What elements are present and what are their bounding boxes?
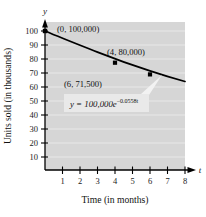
y-axis-title: Units sold (in thousands): [2, 48, 14, 144]
x-tick-label-7: 7: [165, 176, 169, 186]
x-tick-label-5: 5: [130, 176, 134, 186]
y-tick-label-60: 60: [30, 82, 39, 92]
data-point-marker-6: [148, 72, 152, 76]
y-tick-label-40: 40: [30, 110, 39, 120]
equation-body: y = 100,000e: [69, 99, 117, 109]
x-tick-label-3: 3: [95, 176, 99, 186]
chart-svg: 100 90 80 70 60 50 40 30 20 10 1 2 3 4 5…: [0, 0, 206, 217]
y-tick-label-100: 100: [25, 26, 38, 36]
data-point-marker-0: [43, 29, 47, 33]
y-tick-label-20: 20: [30, 138, 39, 148]
data-point-label-0: (0, 100,000): [57, 24, 99, 34]
y-tick-label-80: 80: [30, 54, 39, 64]
y-tick-label-70: 70: [30, 68, 39, 78]
y-tick-label-50: 50: [30, 96, 39, 106]
x-tick-label-4: 4: [113, 176, 118, 186]
x-tick-label-2: 2: [78, 176, 82, 186]
y-axis-variable-label: y: [42, 6, 47, 16]
x-tick-label-1: 1: [60, 176, 64, 186]
data-point-marker-4: [113, 61, 117, 65]
y-tick-label-30: 30: [30, 124, 39, 134]
x-axis-title: Time (in months): [82, 194, 149, 206]
data-point-label-6: (6, 71,500): [64, 79, 102, 89]
equation-exponent: −0.0558t: [117, 98, 139, 104]
y-tick-label-10: 10: [30, 152, 39, 162]
exponential-decay-chart-figure: 100 90 80 70 60 50 40 30 20 10 1 2 3 4 5…: [0, 0, 206, 217]
x-tick-label-6: 6: [148, 176, 152, 186]
x-tick-label-8: 8: [183, 176, 187, 186]
x-axis-variable-label: t: [199, 165, 202, 175]
data-point-label-4: (4, 80,000): [107, 47, 145, 57]
y-tick-label-90: 90: [30, 40, 39, 50]
